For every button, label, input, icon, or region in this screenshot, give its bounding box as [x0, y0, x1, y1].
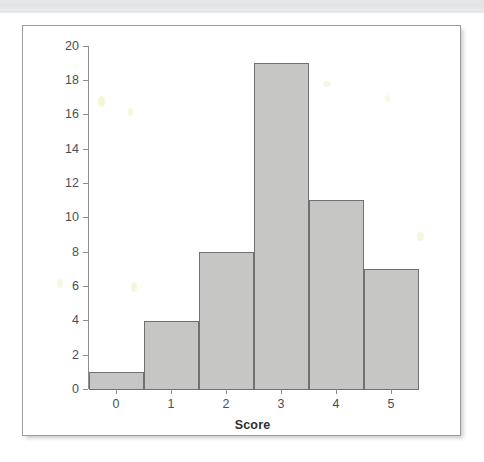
y-axis-tick [83, 286, 88, 287]
y-axis-tick-label: 14 [41, 143, 79, 156]
y-axis-tick [83, 355, 88, 356]
y-axis-tick-label: 18 [41, 74, 79, 87]
histogram-bar [144, 321, 199, 390]
y-axis-tick [83, 46, 88, 47]
y-axis-tick-label: 0 [41, 383, 79, 396]
histogram-bar [89, 372, 144, 390]
y-axis-tick [83, 149, 88, 150]
scan-speckle [323, 81, 331, 87]
y-axis-line [88, 46, 89, 389]
y-axis-tick [83, 217, 88, 218]
histogram-plot-area: 0 2 4 6 8 10 12 14 16 18 20 0 1 [23, 26, 462, 437]
x-axis-tick-label: 3 [261, 398, 301, 411]
y-axis-tick [83, 183, 88, 184]
scanned-page-strip-shadow [0, 11, 484, 14]
y-axis-tick [83, 320, 88, 321]
histogram-bar [199, 252, 254, 390]
y-axis-tick-label: 2 [41, 349, 79, 362]
figure-frame: 0 2 4 6 8 10 12 14 16 18 20 0 1 [22, 25, 461, 436]
scanned-page-top-strip [0, 0, 484, 11]
y-axis-tick [83, 80, 88, 81]
scan-speckle [131, 282, 137, 292]
x-axis-tick-label: 4 [316, 398, 356, 411]
x-axis-tick [336, 389, 337, 394]
x-axis-tick-label: 5 [371, 398, 411, 411]
y-axis-tick-label: 20 [41, 40, 79, 53]
y-axis-tick-label: 8 [41, 246, 79, 259]
scan-speckle [385, 95, 390, 102]
x-axis-title: Score [88, 418, 417, 432]
histogram-bar [254, 63, 309, 390]
y-axis-tick [83, 114, 88, 115]
y-axis-tick [83, 252, 88, 253]
x-axis-tick-label: 1 [151, 398, 191, 411]
scan-speckle [98, 96, 105, 107]
scan-speckle [128, 108, 133, 116]
x-axis-tick-label: 2 [206, 398, 246, 411]
y-axis-tick-label: 12 [41, 177, 79, 190]
histogram-bar [364, 269, 419, 390]
y-axis-tick [83, 389, 88, 390]
y-axis-tick-label: 4 [41, 314, 79, 327]
x-axis-tick [171, 389, 172, 394]
scan-speckle [417, 232, 424, 241]
x-axis-tick [116, 389, 117, 394]
y-axis-tick-label: 6 [41, 280, 79, 293]
x-axis-tick-label: 0 [96, 398, 136, 411]
x-axis-tick [226, 389, 227, 394]
y-axis-tick-label: 16 [41, 108, 79, 121]
y-axis-tick-label: 10 [41, 211, 79, 224]
x-axis-tick [391, 389, 392, 394]
x-axis-tick [281, 389, 282, 394]
histogram-bar [309, 200, 364, 390]
